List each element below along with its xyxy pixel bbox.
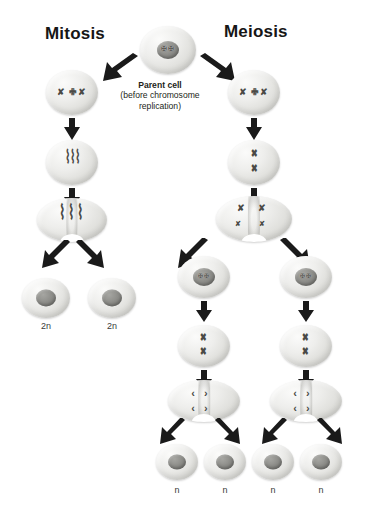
meiosis-ii-left-nucleus: ✠✠ (193, 268, 215, 286)
meiosis-gamete-cell-4 (300, 444, 342, 480)
arrow-meiosis-1 (246, 118, 262, 140)
title-meiosis: Meiosis (224, 22, 288, 42)
ploidy-label-meiosis-2: n (204, 485, 246, 495)
mitosis-cell-dividing: ⌇⌇⌇ (37, 198, 107, 242)
meiosis-ii-left-cell-aligned: ✖ ✖ (178, 325, 230, 367)
parent-cell: ✠✠ (140, 26, 196, 74)
meiosis-gamete-1-nucleus (168, 455, 186, 470)
arrow-meiosis-ii-left-split-2 (212, 418, 242, 446)
mitosis-daughter-cell-1 (22, 278, 70, 318)
mitosis-daughter-cell-2 (88, 278, 136, 318)
meiosis-ii-left-anaphase-bottom: ‹› (168, 403, 240, 414)
meiosis-ii-right-nucleus: ✠✠ (295, 268, 317, 286)
ploidy-label-mitosis-2: 2n (88, 321, 136, 331)
ploidy-label-meiosis-3: n (252, 485, 294, 495)
meiosis-ii-right-anaphase-top: ‹› (270, 388, 342, 399)
meiosis-gamete-3-nucleus (264, 455, 282, 470)
arrow-parent-to-mitosis (100, 52, 140, 84)
meiosis-chromosomes-replicated: ✘ ✙✘ (228, 88, 280, 97)
meiosis-ii-right-cell-dividing: ‹› ‹› (270, 380, 342, 422)
meiosis-ii-left-anaphase-top: ‹› (168, 388, 240, 399)
mitosis-chromosomes-replicated: ✘ ✙✘ (46, 88, 98, 97)
meiosis-ii-right-anaphase-bottom: ‹› (270, 403, 342, 414)
arrow-meiosis-ii-left-split-1 (158, 418, 188, 446)
meiosis-cell-dividing-1: ✘ ✘ ✘ ✘ (216, 196, 292, 242)
mitosis-daughter-1-nucleus (36, 290, 56, 307)
parent-cell-caption-title: Parent cell (138, 80, 181, 90)
title-mitosis: Mitosis (45, 24, 105, 44)
arrow-mitosis-split-left (40, 240, 74, 272)
meiosis-chromosomes-pair-bottom: ✖ (228, 163, 280, 174)
meiosis-cell-paired: ✖ ✖ (228, 140, 280, 185)
meiosis-ii-right-cell-interphase: ✠✠ (280, 256, 332, 298)
ploidy-label-meiosis-4: n (300, 485, 342, 495)
arrow-mitosis-1 (64, 118, 80, 140)
mitosis-chromosomes-separating: ⌇⌇⌇ (37, 203, 107, 223)
arrow-mitosis-split-right (72, 240, 106, 272)
meiosis-ii-left-cell-dividing: ‹› ‹› (168, 380, 240, 422)
mitosis-daughter-2-nucleus (102, 290, 122, 307)
diagram-canvas: Mitosis Meiosis ✠✠ Parent cell (before c… (0, 0, 377, 520)
meiosis-ii-right-chromosome-bottom: ✖ (280, 346, 332, 357)
meiosis-gamete-2-nucleus (216, 455, 234, 470)
meiosis-gamete-cell-1 (156, 444, 198, 480)
mitosis-cell-replicated: ✘ ✙✘ (46, 70, 98, 115)
meiosis-gamete-cell-2 (204, 444, 246, 480)
arrow-meiosis-ii-right-split-2 (314, 418, 344, 446)
meiosis-ii-right-cell-aligned: ✖ ✖ (280, 325, 332, 367)
ploidy-label-meiosis-1: n (156, 485, 198, 495)
arrow-meiosis-ii-left-1 (196, 301, 212, 322)
parent-cell-caption: Parent cell (before chromosome replicati… (105, 80, 215, 111)
meiosis-ii-left-chromosome-top: ✖ (178, 332, 230, 343)
arrow-meiosis-ii-right-split-1 (260, 418, 290, 446)
arrow-meiosis-ii-right-1 (298, 301, 314, 322)
meiosis-ii-right-chromosome-top: ✖ (280, 332, 332, 343)
mitosis-cell-aligned: ⌇⌇⌇ (46, 140, 98, 185)
meiosis-cell-replicated: ✘ ✙✘ (228, 70, 280, 115)
mitosis-chromosomes-aligned: ⌇⌇⌇ (46, 149, 98, 167)
meiosis-ii-right-nuclear-chromosomes: ✠✠ (295, 273, 317, 279)
parent-chromosomes: ✠✠ (157, 45, 179, 52)
meiosis-chromosomes-pair-top: ✖ (228, 148, 280, 159)
ploidy-label-mitosis-1: 2n (22, 321, 70, 331)
parent-cell-caption-line2: (before chromosome (120, 90, 199, 100)
parent-cell-nucleus: ✠✠ (157, 41, 179, 59)
meiosis-ii-left-cell-interphase: ✠✠ (178, 256, 230, 298)
meiosis-gamete-4-nucleus (312, 455, 330, 470)
parent-cell-caption-line3: replication) (139, 101, 181, 111)
meiosis-gamete-cell-3 (252, 444, 294, 480)
meiosis-ii-left-chromosome-bottom: ✖ (178, 346, 230, 357)
meiosis-ii-left-nuclear-chromosomes: ✠✠ (193, 273, 215, 279)
meiosis-i-chromosomes-bottom: ✘ ✘ (216, 220, 292, 227)
meiosis-i-chromosomes-top: ✘ ✘ (216, 204, 292, 213)
